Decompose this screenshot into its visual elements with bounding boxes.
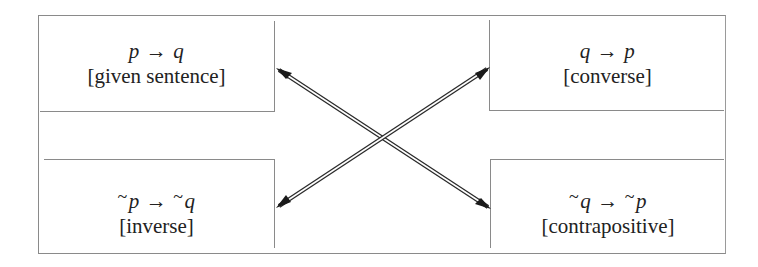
- arrowhead-icon: [475, 67, 490, 80]
- crossing-arrows: [0, 0, 758, 267]
- arrowhead-icon: [276, 195, 291, 208]
